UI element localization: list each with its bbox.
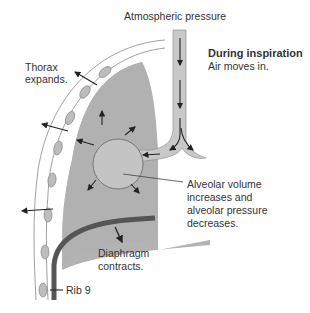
diagram-subtitle: Air moves in. xyxy=(208,60,269,73)
alveolar-label-line2: increases and xyxy=(187,191,252,204)
diagram-title: During inspiration xyxy=(208,47,303,60)
diaphragm-label-line2: contracts. xyxy=(98,260,144,273)
thorax-label-line1: Thorax xyxy=(25,61,58,74)
atmospheric-pressure-label: Atmospheric pressure xyxy=(124,10,226,23)
alveolus xyxy=(93,139,143,189)
rib-label: Rib 9 xyxy=(66,284,91,297)
diaphragm-label-line1: Diaphragm xyxy=(98,247,149,260)
thorax-label-line2: expands. xyxy=(25,73,68,86)
alveolar-label-line1: Alveolar volume xyxy=(187,178,262,191)
alveolar-label-line3: alveolar pressure xyxy=(187,204,268,217)
alveolar-label-line4: decreases. xyxy=(187,217,238,230)
